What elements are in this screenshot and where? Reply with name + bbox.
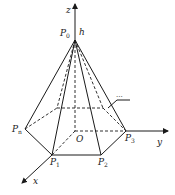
x-axis-label: x [33,176,38,186]
ellipsis-label: ... [116,91,123,99]
point-p0-label: P0 [59,28,70,39]
y-axis-label: y [156,137,163,147]
point-p2-label: P2 [97,157,108,168]
diagram-canvas: z y x h O ... P0 P1 P2 P3 Pn [0,0,175,195]
z-axis-label: z [65,5,71,15]
pyramid-diagram: z y x h O ... P0 P1 P2 P3 Pn [0,0,175,195]
origin-label: O [76,134,84,144]
point-pn-label: Pn [11,124,22,135]
point-p3-label: P3 [124,133,135,144]
point-p1-label: P1 [49,157,60,168]
height-label: h [79,27,85,37]
